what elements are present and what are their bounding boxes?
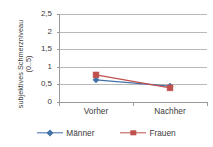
y-tick-label: 0,5 <box>41 80 52 88</box>
y-tickmark <box>57 84 60 85</box>
gridline <box>60 32 207 33</box>
pain-level-line-chart: subjektives Schmerzniveau (0..5) 00,511,… <box>0 0 213 147</box>
gridline <box>60 67 207 68</box>
y-axis-tick-labels: 00,511,522,5 <box>0 14 55 102</box>
diamond-marker-icon <box>37 128 63 138</box>
y-tick-label: 2,5 <box>41 10 52 18</box>
x-tickmark <box>133 102 134 106</box>
y-tick-label: 0 <box>48 98 52 106</box>
y-tickmark <box>57 49 60 50</box>
x-tick-label: Vorher <box>84 107 108 115</box>
legend-label-frauen: Frauen <box>149 129 175 137</box>
chart-legend: Männer Frauen <box>0 126 213 140</box>
legend-item-maenner[interactable]: Männer <box>37 128 94 138</box>
x-tick-label: Nachher <box>154 107 185 115</box>
x-tickmark <box>207 102 208 106</box>
y-tick-label: 2 <box>48 28 52 36</box>
square-marker-icon <box>120 128 146 138</box>
y-tick-label: 1,5 <box>41 45 52 53</box>
y-tickmark <box>57 67 60 68</box>
x-axis-tick-labels: VorherNachher <box>59 107 207 119</box>
y-tick-label: 1 <box>48 63 52 71</box>
gridline <box>60 14 207 15</box>
legend-label-maenner: Männer <box>66 129 94 137</box>
gridline <box>60 84 207 85</box>
x-tickmark <box>59 102 60 106</box>
y-tickmark <box>57 32 60 33</box>
legend-item-frauen[interactable]: Frauen <box>120 128 175 138</box>
plot-area <box>59 14 207 102</box>
gridline <box>60 49 207 50</box>
y-tickmark <box>57 14 60 15</box>
